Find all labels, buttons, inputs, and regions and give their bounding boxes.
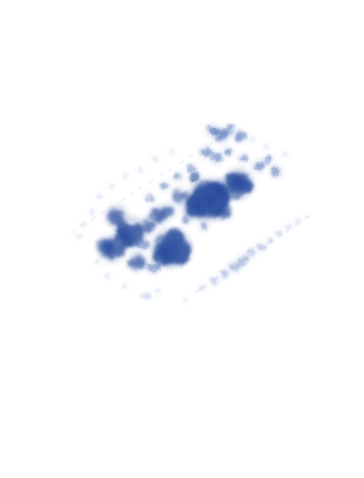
- cell-granule: [238, 258, 243, 263]
- cell-granule: [149, 195, 151, 197]
- cell-granule: [251, 140, 254, 143]
- cell-granule: [210, 278, 214, 282]
- cell-cluster: [198, 220, 210, 232]
- cell-granule: [251, 137, 254, 140]
- cell-granule: [228, 150, 231, 153]
- cell-cluster: [275, 229, 284, 238]
- cell-cluster: [122, 172, 131, 181]
- cell-granule: [126, 172, 129, 175]
- cell-granule: [207, 150, 212, 155]
- cell-granule: [249, 139, 251, 141]
- cell-granule: [185, 298, 188, 301]
- cell-granule: [194, 176, 198, 180]
- cell-granule: [212, 281, 215, 284]
- cell-granule: [90, 210, 93, 213]
- cell-cluster: [105, 204, 128, 227]
- cell-granule: [140, 240, 143, 243]
- cell-granule: [159, 183, 164, 188]
- cell-cluster: [74, 232, 83, 241]
- cell-granule: [140, 244, 145, 249]
- cell-granule: [146, 264, 152, 270]
- cell-cluster: [293, 217, 302, 226]
- cell-nucleus-core: [112, 213, 120, 221]
- cell-granule: [112, 185, 113, 186]
- cell-granule: [154, 290, 157, 293]
- cell-cluster: [159, 202, 176, 219]
- cell-granule: [150, 213, 154, 217]
- cell-granule: [223, 271, 227, 275]
- cell-granule: [285, 227, 287, 229]
- cell-granule: [278, 232, 281, 235]
- cell-cluster: [94, 258, 103, 267]
- cell-granule: [154, 157, 156, 159]
- cell-cluster: [152, 156, 161, 165]
- cell-granule: [262, 245, 267, 250]
- cell-cluster: [233, 129, 248, 144]
- cell-granule: [202, 224, 206, 228]
- cell-granule: [183, 298, 185, 300]
- cell-granule: [184, 218, 189, 223]
- cell-nucleus-core: [235, 179, 242, 186]
- cell-granule: [251, 254, 254, 257]
- cell-granule: [189, 165, 192, 168]
- cell-nucleus-core: [219, 207, 226, 214]
- cell-cluster: [237, 152, 249, 164]
- cell-granule: [177, 175, 179, 177]
- cell-granule: [305, 214, 306, 215]
- cell-cluster: [88, 208, 97, 217]
- cell-granule: [210, 156, 214, 160]
- cell-granule: [157, 291, 159, 293]
- cell-granule: [306, 217, 307, 218]
- cell-granule: [228, 124, 233, 129]
- cell-granule: [150, 195, 152, 197]
- cell-granule: [222, 274, 226, 278]
- cell-granule: [91, 213, 93, 215]
- cell-granule: [122, 173, 126, 177]
- cell-granule: [284, 153, 286, 155]
- cell-granule: [231, 267, 235, 271]
- cell-granule: [218, 131, 225, 138]
- cell-cluster: [96, 192, 105, 201]
- cell-cluster: [136, 166, 145, 175]
- cell-granule: [271, 238, 272, 239]
- cell-granule: [98, 193, 101, 196]
- cell-granule: [203, 151, 206, 154]
- cell-cluster: [80, 220, 89, 229]
- cell-granule: [260, 246, 262, 248]
- cell-granule: [220, 158, 223, 161]
- cell-cluster: [171, 187, 188, 204]
- cell-granule: [153, 159, 155, 161]
- cell-granule: [153, 266, 158, 271]
- cell-granule: [242, 157, 244, 159]
- cell-granule: [110, 183, 113, 186]
- cell-nucleus-core: [160, 249, 169, 258]
- cell-granule: [159, 209, 166, 216]
- cell-cluster: [127, 252, 147, 272]
- cell-granule: [295, 222, 297, 224]
- cell-granule: [258, 245, 260, 247]
- cell-nucleus-core: [191, 202, 201, 212]
- cell-cluster: [248, 136, 257, 145]
- cell-cluster: [172, 171, 184, 183]
- cell-nucleus-core: [214, 187, 223, 196]
- cell-granule: [115, 244, 126, 255]
- cell-cluster: [303, 213, 309, 219]
- cell-cluster: [108, 182, 117, 191]
- cell-cluster: [262, 154, 274, 166]
- cell-granule: [178, 194, 182, 198]
- cell-granule: [298, 220, 300, 222]
- cell-granule: [95, 259, 98, 262]
- cell-granule: [287, 226, 289, 228]
- cell-granule: [263, 146, 266, 149]
- cell-granule: [237, 130, 242, 135]
- cell-cluster: [262, 142, 271, 151]
- cell-cluster: [208, 275, 220, 287]
- cell-granule: [273, 168, 279, 174]
- cell-granule: [122, 283, 126, 287]
- cell-cluster: [104, 272, 113, 281]
- cell-granule: [202, 227, 205, 230]
- cell-granule: [96, 195, 100, 199]
- cell-granule: [106, 273, 109, 276]
- smear-field-svg: [0, 0, 364, 478]
- cell-cluster: [212, 201, 232, 221]
